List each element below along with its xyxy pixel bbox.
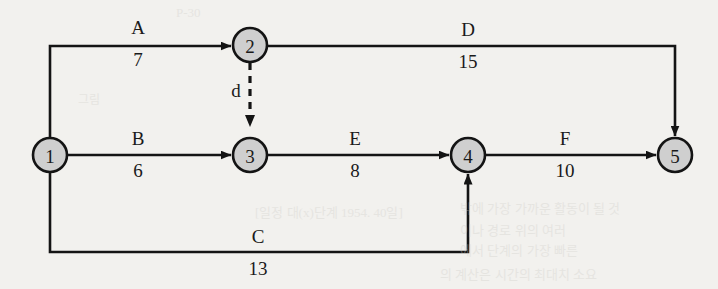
node-5[interactable]: 5: [658, 138, 692, 172]
edge-d-dummy[interactable]: d: [231, 63, 250, 126]
diagram-canvas: P-30 그림 [일정 대(x)단계 1954. 40일] 밖에 가장 가까운 …: [0, 0, 718, 289]
edge-F-label: F: [560, 128, 571, 149]
node-3[interactable]: 3: [233, 138, 267, 172]
edge-B-weight: 6: [133, 160, 143, 181]
edge-D-label: D: [461, 19, 475, 40]
node-1-label: 1: [45, 146, 55, 167]
edge-C[interactable]: C 13: [50, 172, 468, 279]
edge-D[interactable]: D 15: [267, 19, 675, 136]
node-3-label: 3: [245, 146, 255, 167]
edge-C-weight: 13: [249, 258, 268, 279]
edge-A-label: A: [131, 17, 145, 38]
edge-F[interactable]: F 10: [485, 128, 656, 181]
edge-B-label: B: [132, 128, 145, 149]
node-1[interactable]: 1: [33, 138, 67, 172]
edge-E-label: E: [349, 128, 361, 149]
node-4-label: 4: [463, 146, 473, 167]
edge-F-weight: 10: [556, 160, 575, 181]
edge-E-weight: 8: [350, 160, 360, 181]
edge-D-weight: 15: [459, 51, 478, 72]
edge-d-dummy-label: d: [231, 80, 241, 101]
node-2[interactable]: 2: [233, 28, 267, 62]
node-4[interactable]: 4: [451, 138, 485, 172]
node-5-label: 5: [670, 146, 680, 167]
network-diagram-svg: A 7 B 6 C 13 D 15 E 8 F: [0, 0, 718, 289]
edge-B[interactable]: B 6: [67, 128, 231, 181]
edge-A-weight: 7: [133, 49, 143, 70]
node-2-label: 2: [245, 36, 255, 57]
edge-E[interactable]: E 8: [267, 128, 449, 181]
edge-A[interactable]: A 7: [50, 17, 231, 138]
edge-C-label: C: [252, 226, 265, 247]
